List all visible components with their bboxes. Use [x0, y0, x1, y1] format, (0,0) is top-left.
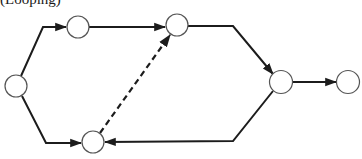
- node-start: [5, 75, 27, 97]
- node-end: [337, 71, 360, 94]
- edge-n1-n4: [22, 96, 81, 143]
- edge-n5-n4-loop: [105, 91, 273, 142]
- node-merge: [270, 71, 293, 94]
- node-upper-middle: [166, 14, 188, 36]
- edge-n3-n5: [188, 26, 273, 74]
- edge-n1-n2: [21, 27, 66, 76]
- flow-diagram: [0, 0, 362, 159]
- node-upper-left: [67, 16, 89, 38]
- node-lower: [82, 131, 104, 153]
- edge-n4-n3-dashed: [100, 35, 170, 133]
